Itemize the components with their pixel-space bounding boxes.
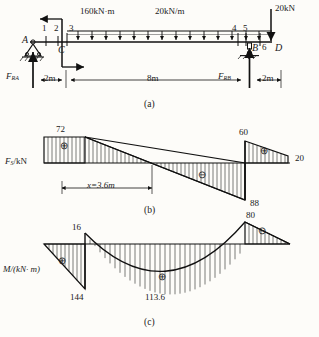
moment-value-80: 80 xyxy=(246,211,255,220)
moment-axis-label: M/(kN· m) xyxy=(3,265,40,274)
shear-zero-dimension: x=3.6m xyxy=(87,181,115,190)
section-label-4: 4 xyxy=(232,24,237,33)
moment-value-144: 144 xyxy=(70,293,84,302)
dimension-label-left: 2m xyxy=(44,74,56,83)
shear-value-20: 20 xyxy=(295,154,304,163)
point-label-d: D xyxy=(275,43,282,53)
moment-sign-negative: ⊖ xyxy=(258,226,266,236)
caption-b: (b) xyxy=(144,206,155,216)
point-label-b: B xyxy=(252,43,258,53)
reaction-left-subscript: RA xyxy=(12,75,19,81)
moment-value-16: 16 xyxy=(72,223,81,232)
section-label-3: 3 xyxy=(69,24,74,33)
figure-vector-layer xyxy=(0,0,319,337)
shear-sign-positive-right: ⊕ xyxy=(260,146,268,156)
dimension-lines xyxy=(41,70,281,88)
shear-diagram-group xyxy=(44,137,290,200)
structural-analysis-figure: 160kN·m 20kN/m 20kN A C B D 1 2 3 4 5 6 … xyxy=(0,0,319,337)
shear-axis-label: FS/kN xyxy=(5,157,27,166)
dimension-label-mid: 8m xyxy=(147,74,159,83)
shear-sign-positive-left: ⊕ xyxy=(60,141,68,151)
reaction-right-subscript: RB xyxy=(224,75,231,81)
shear-sign-negative: ⊖ xyxy=(198,170,206,180)
dimension-label-right: 2m xyxy=(262,74,274,83)
point-label-c: C xyxy=(58,45,65,55)
point-label-a: A xyxy=(22,35,28,45)
reaction-label-right: FRB xyxy=(218,72,231,81)
moment-sign-positive-left: ⊕ xyxy=(58,256,66,266)
moment-diagram-group xyxy=(44,222,290,294)
shear-value-72: 72 xyxy=(56,125,65,134)
moment-couple-label: 160kN·m xyxy=(80,7,115,16)
distributed-load-label: 20kN/m xyxy=(155,7,185,16)
point-load-label: 20kN xyxy=(275,4,295,13)
section-label-2: 2 xyxy=(54,24,59,33)
moment-value-113-6: 113.6 xyxy=(145,293,165,302)
section-label-6: 6 xyxy=(262,43,267,52)
moment-sign-positive-mid: ⊕ xyxy=(158,272,166,282)
section-label-5: 5 xyxy=(243,24,248,33)
section-label-1: 1 xyxy=(42,24,47,33)
shear-axis-unit: /kN xyxy=(14,156,28,166)
shear-value-60: 60 xyxy=(239,128,248,137)
reaction-label-left: FRA xyxy=(6,72,19,81)
caption-a: (a) xyxy=(144,100,155,110)
shear-value-88: 88 xyxy=(250,199,259,208)
caption-c: (c) xyxy=(144,318,155,328)
